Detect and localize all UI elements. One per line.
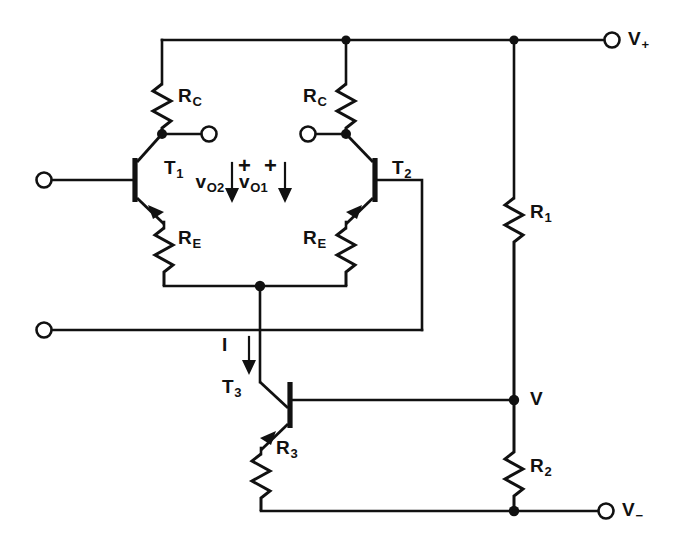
terminal-v-minus[interactable] xyxy=(599,504,614,519)
terminal-vo2[interactable] xyxy=(301,127,316,142)
vo1-arrow-head xyxy=(225,188,239,203)
label-rc-right: RC xyxy=(303,86,327,105)
label-current-i: I xyxy=(222,335,227,354)
t3-collector-lead xyxy=(260,382,288,408)
terminal-vo1[interactable] xyxy=(202,127,217,142)
label-re-right: RE xyxy=(303,228,326,247)
resistor-rc-right xyxy=(337,84,355,134)
label-t2: T2 xyxy=(392,158,411,177)
re-right-zigzag xyxy=(337,228,355,286)
label-t1: T1 xyxy=(164,158,183,177)
t2-collector-lead xyxy=(346,134,373,162)
label-rc-left: RC xyxy=(178,86,202,105)
current-arrow-head xyxy=(242,360,256,375)
terminal-v-plus[interactable] xyxy=(605,33,620,48)
transistor-t1 xyxy=(37,127,217,225)
terminal-input-left-lower[interactable] xyxy=(37,323,52,338)
label-node-v: V xyxy=(530,389,543,408)
label-vo1: vO1 xyxy=(239,172,268,191)
resistor-re-left xyxy=(155,222,260,286)
r3-zigzag xyxy=(252,454,270,511)
label-v-minus: V− xyxy=(622,500,643,519)
r1-zigzag xyxy=(505,198,523,400)
node-r1-top xyxy=(509,35,518,44)
top-supply-rail xyxy=(162,35,612,198)
terminal-input-left-upper[interactable] xyxy=(37,173,52,188)
resistor-rc-left xyxy=(153,84,171,134)
r2-zigzag xyxy=(505,400,523,511)
rc-right-zigzag xyxy=(337,84,355,134)
resistor-r1 xyxy=(505,198,523,400)
re-left-zigzag xyxy=(155,228,173,286)
resistor-r2 xyxy=(505,400,523,511)
t1-collector-lead xyxy=(137,134,162,162)
transistor-t3 xyxy=(260,382,514,450)
input-lower-left-branch xyxy=(37,323,423,338)
rc-left-zigzag xyxy=(153,84,171,134)
label-r3: R3 xyxy=(276,438,297,457)
label-re-left: RE xyxy=(178,228,201,247)
supply-terminals xyxy=(509,33,620,519)
schematic-svg xyxy=(0,0,684,552)
label-vo2: vO2 xyxy=(195,172,224,191)
label-t3: T3 xyxy=(222,377,241,396)
circuit-diagram: RC RC RE RE T1 T2 T3 + + vO1 vO2 I R3 R1… xyxy=(0,0,684,552)
tail-node-branch xyxy=(255,281,265,382)
label-v-plus: V+ xyxy=(628,29,649,48)
label-r2: R2 xyxy=(530,456,551,475)
label-r1: R1 xyxy=(530,202,551,221)
t2-base-lead xyxy=(375,180,422,330)
vo2-arrow-head xyxy=(278,188,292,203)
node-rc-right-top xyxy=(341,35,350,44)
